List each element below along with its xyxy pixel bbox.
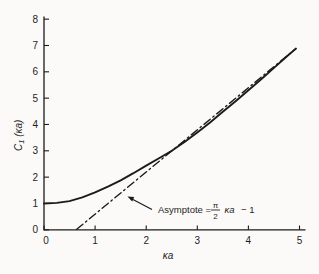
x-tick-label: 0 xyxy=(43,235,49,246)
y-tick-label: 6 xyxy=(32,66,38,77)
x-tick-label: 3 xyxy=(195,235,201,246)
y-axis-title: C1 (κa) xyxy=(13,120,26,151)
x-tick-label: 5 xyxy=(297,235,303,246)
y-tick-label: 1 xyxy=(32,198,38,209)
y-tick-label: 7 xyxy=(32,40,38,51)
y-tick-label: 2 xyxy=(32,172,38,183)
c1-curve xyxy=(44,49,296,204)
annotation: Asymptote = π 2 κa − 1 xyxy=(158,201,254,221)
y-tick-label: 8 xyxy=(32,14,38,25)
annotation-frac-denominator: 2 xyxy=(213,212,218,221)
x-axis-title: κa xyxy=(163,250,174,261)
y-tick-label: 3 xyxy=(32,145,38,156)
annotation-frac-numerator: π xyxy=(213,201,219,210)
y-tick-label: 5 xyxy=(32,93,38,104)
annotation-variable: κa xyxy=(225,204,235,215)
arrowhead-icon xyxy=(128,197,135,202)
annotation-prefix: Asymptote = xyxy=(158,204,212,215)
annotation-tail: − 1 xyxy=(241,204,254,215)
x-tick-label: 1 xyxy=(92,235,98,246)
figure: 012345012345678 C1 (κa) κa Asymptote = π… xyxy=(0,0,319,274)
y-tick-label: 4 xyxy=(32,119,38,130)
y-tick-label: 0 xyxy=(32,224,38,235)
x-tick-label: 4 xyxy=(246,235,252,246)
asymptote-line xyxy=(77,49,296,230)
annotation-arrow xyxy=(128,197,153,210)
x-tick-label: 2 xyxy=(143,235,149,246)
chart-svg: 012345012345678 C1 (κa) κa Asymptote = π… xyxy=(0,0,319,274)
